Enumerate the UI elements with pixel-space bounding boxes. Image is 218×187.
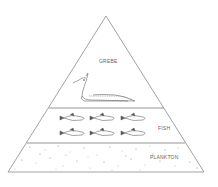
label-fish: FISH <box>158 125 170 131</box>
label-plankton: PLANKTON <box>150 154 178 160</box>
pyramid-diagram <box>0 0 218 187</box>
label-grebe: GREBE <box>99 58 118 64</box>
pyramid-outline <box>8 16 204 172</box>
